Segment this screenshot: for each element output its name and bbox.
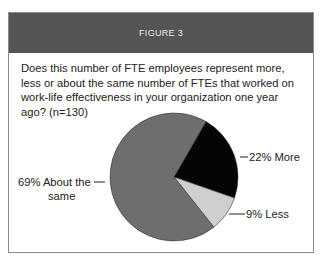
label-same-line2: same [48,190,75,203]
label-same-line1: 69% About the [18,176,91,189]
label-less: 9% Less [246,208,289,221]
label-more: 22% More [249,151,300,164]
